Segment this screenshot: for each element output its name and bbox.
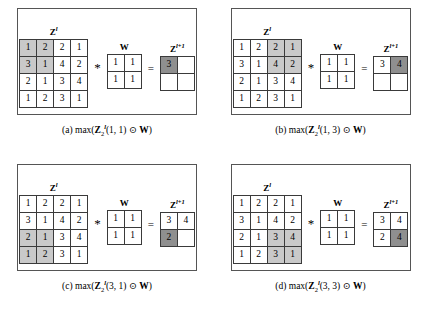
kernel-cell: 1	[108, 228, 125, 245]
kernel-label-d-base: W	[333, 198, 342, 208]
output-matrix-label-d: Zl+1	[383, 197, 398, 210]
kernel-label-c: W	[120, 198, 129, 208]
caption-prefix: (c) max(	[62, 281, 94, 291]
input-matrix-label-a: Zl	[50, 24, 58, 37]
kernel-cell: 1	[338, 211, 355, 228]
input-matrix-cell: 3	[268, 247, 285, 264]
input-matrix-label-c-superscript: l	[56, 181, 58, 188]
input-matrix-cell: 1	[20, 91, 37, 108]
output-matrix-label-b: Zl+1	[383, 41, 398, 54]
convolve-operator-b: *	[306, 61, 317, 74]
panel-c: Zl1221314221341231*W1111=Zl+1342(c) max(…	[0, 156, 214, 312]
kernel-label-d: W	[333, 198, 342, 208]
input-matrix-cell: 4	[285, 230, 302, 247]
input-matrix-label-b: Zl	[263, 24, 271, 37]
input-feature-map-a: Zl1221314221341231	[19, 24, 88, 108]
input-matrix-cell: 2	[268, 196, 285, 213]
output-matrix-cell: 4	[391, 230, 408, 247]
output-matrix-label-a-superscript: l+1	[176, 42, 185, 49]
output-matrix-grid-d: 3424	[373, 212, 408, 247]
kernel-cell: 1	[108, 211, 125, 228]
input-matrix-cell: 3	[54, 247, 71, 264]
output-feature-map-b: Zl+134	[373, 41, 408, 91]
output-matrix-cell	[161, 74, 178, 91]
input-matrix-cell: 2	[37, 40, 54, 57]
kernel-grid-d: 1111	[320, 210, 355, 245]
output-matrix-cell: 3	[161, 57, 178, 74]
output-matrix-label-a: Zl+1	[170, 41, 185, 54]
caption-suffix: )	[149, 125, 152, 135]
input-matrix-cell: 1	[71, 91, 88, 108]
panel-d: Zl1221314221341231*W1111=Zl+13424(d) max…	[214, 156, 427, 312]
input-matrix-grid-b: 1221314221341231	[233, 39, 302, 108]
input-matrix-cell: 1	[37, 230, 54, 247]
input-matrix-cell: 2	[251, 91, 268, 108]
output-matrix-cell: 4	[178, 213, 195, 230]
caption-pool-size-subscript: 2	[101, 130, 104, 137]
caption-suffix: )	[363, 125, 366, 135]
output-matrix-label-b-superscript: l+1	[389, 42, 398, 49]
panel-c-caption: (c) max(Z2l(3, 1) ⊙ W)	[62, 277, 152, 296]
output-matrix-cell: 2	[374, 230, 391, 247]
kernel-label-a-base: W	[120, 42, 129, 52]
panel-b: Zl1221314221341231*W1111=Zl+134(b) max(Z…	[214, 0, 427, 156]
kernel-label-a: W	[120, 42, 129, 52]
input-matrix-cell: 1	[71, 247, 88, 264]
input-matrix-cell: 1	[285, 91, 302, 108]
input-matrix-cell: 2	[54, 40, 71, 57]
input-matrix-cell: 1	[234, 196, 251, 213]
input-matrix-cell: 2	[20, 230, 37, 247]
output-matrix-cell: 4	[391, 57, 408, 74]
kernel-b: W1111	[320, 42, 355, 89]
caption-hadamard-operator: ⊙	[129, 125, 139, 135]
output-matrix-cell: 2	[161, 230, 178, 247]
input-matrix-cell: 2	[37, 247, 54, 264]
kernel-cell: 1	[338, 228, 355, 245]
input-matrix-cell: 2	[20, 74, 37, 91]
output-matrix-cell: 3	[161, 213, 178, 230]
kernel-cell: 1	[321, 72, 338, 89]
input-matrix-cell: 4	[268, 213, 285, 230]
input-matrix-cell: 3	[54, 230, 71, 247]
kernel-cell: 1	[108, 55, 125, 72]
output-matrix-grid-c: 342	[160, 212, 195, 247]
input-matrix-cell: 1	[37, 213, 54, 230]
input-matrix-label-c: Zl	[50, 180, 58, 193]
output-matrix-cell: 3	[374, 57, 391, 74]
input-matrix-cell: 1	[251, 230, 268, 247]
input-matrix-cell: 1	[71, 40, 88, 57]
input-matrix-cell: 1	[234, 91, 251, 108]
output-matrix-cell	[178, 57, 195, 74]
caption-window-index: (1, 3)	[320, 125, 343, 135]
input-matrix-cell: 2	[285, 213, 302, 230]
kernel-cell: 1	[125, 72, 142, 89]
panel-c-frame: Zl1221314221341231*W1111=Zl+1342	[17, 164, 197, 271]
input-matrix-cell: 2	[234, 230, 251, 247]
caption-kernel-symbol: W	[353, 125, 363, 135]
input-matrix-cell: 3	[54, 91, 71, 108]
output-matrix-label-d-superscript: l+1	[389, 198, 398, 205]
input-matrix-cell: 3	[20, 213, 37, 230]
input-matrix-cell: 4	[285, 74, 302, 91]
caption-kernel-symbol: W	[353, 281, 363, 291]
caption-suffix: )	[149, 281, 152, 291]
output-matrix-cell: 4	[391, 213, 408, 230]
output-feature-map-d: Zl+13424	[373, 197, 408, 247]
input-matrix-cell: 3	[268, 91, 285, 108]
panel-d-caption: (d) max(Z2l(3, 3) ⊙ W)	[275, 277, 365, 296]
input-matrix-cell: 2	[251, 247, 268, 264]
input-matrix-grid-d: 1221314221341231	[233, 195, 302, 264]
output-matrix-label-c: Zl+1	[170, 197, 185, 210]
kernel-grid-a: 1111	[107, 54, 142, 89]
input-matrix-cell: 1	[251, 213, 268, 230]
caption-window-index: (3, 1)	[106, 281, 129, 291]
output-matrix-cell	[178, 74, 195, 91]
caption-window-index: (3, 3)	[320, 281, 343, 291]
input-matrix-cell: 1	[234, 40, 251, 57]
output-matrix-cell	[374, 74, 391, 91]
output-matrix-cell: 3	[374, 213, 391, 230]
input-matrix-cell: 2	[71, 213, 88, 230]
input-matrix-grid-c: 1221314221341231	[19, 195, 88, 264]
caption-prefix: (d) max(	[275, 281, 308, 291]
kernel-a: W1111	[107, 42, 142, 89]
